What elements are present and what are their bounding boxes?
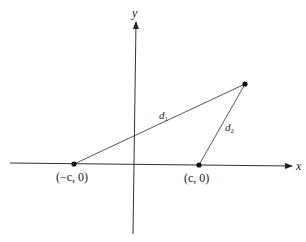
focus-left-point — [71, 161, 76, 166]
segment-d2: d2 — [199, 84, 245, 165]
focus-right-point — [196, 162, 201, 167]
focus-left-label: (−c, 0) — [56, 170, 88, 184]
x-axis: x — [10, 159, 302, 173]
point-p — [242, 81, 247, 86]
d1-label: d1 — [159, 109, 169, 123]
x-axis-label: x — [295, 159, 302, 173]
y-axis-label: y — [131, 6, 138, 20]
y-axis: y — [131, 6, 138, 234]
coordinate-diagram: x y d1 d2 (−c, 0) (c, 0) — [0, 0, 306, 242]
d2-label: d2 — [225, 121, 235, 135]
focus-right-label: (c, 0) — [184, 171, 209, 185]
segment-d1: d1 — [74, 84, 245, 164]
